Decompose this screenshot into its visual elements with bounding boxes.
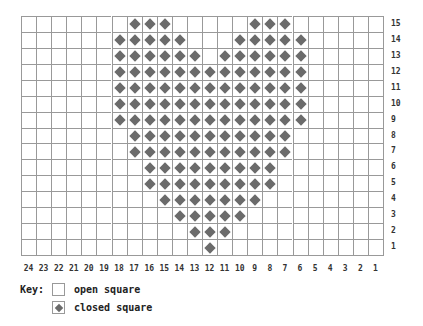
diamond-icon xyxy=(174,114,185,125)
diamond-icon xyxy=(235,178,246,189)
diamond-icon xyxy=(235,194,246,205)
open-square xyxy=(36,175,51,191)
open-square xyxy=(217,16,232,32)
open-square xyxy=(247,223,262,239)
closed-square xyxy=(157,96,172,112)
closed-square xyxy=(187,207,202,223)
open-square xyxy=(36,128,51,144)
open-square xyxy=(338,239,353,255)
open-square xyxy=(353,128,368,144)
diamond-icon xyxy=(189,178,200,189)
open-square xyxy=(293,207,308,223)
diamond-icon xyxy=(159,51,170,62)
closed-square xyxy=(202,159,217,175)
closed-square xyxy=(262,175,277,191)
closed-square xyxy=(157,143,172,159)
closed-square xyxy=(172,48,187,64)
diamond-icon xyxy=(204,67,215,78)
open-square xyxy=(81,239,96,255)
closed-square xyxy=(172,80,187,96)
open-square xyxy=(96,159,111,175)
closed-square xyxy=(232,80,247,96)
closed-square xyxy=(217,112,232,128)
closed-square xyxy=(217,175,232,191)
closed-square xyxy=(247,32,262,48)
diamond-icon xyxy=(295,51,306,62)
open-square xyxy=(277,223,292,239)
open-square xyxy=(262,207,277,223)
open-square xyxy=(21,143,36,159)
closed-square xyxy=(157,80,172,96)
open-square xyxy=(323,112,338,128)
diamond-icon xyxy=(235,130,246,141)
diamond-icon xyxy=(219,226,230,237)
open-square xyxy=(157,239,172,255)
closed-square xyxy=(172,207,187,223)
diamond-icon xyxy=(174,130,185,141)
diamond-icon xyxy=(159,194,170,205)
open-square xyxy=(308,191,323,207)
open-square xyxy=(127,223,142,239)
diamond-icon xyxy=(159,146,170,157)
closed-square xyxy=(187,191,202,207)
open-square xyxy=(202,32,217,48)
open-square xyxy=(51,175,66,191)
closed-square xyxy=(142,96,157,112)
open-square xyxy=(51,191,66,207)
open-square xyxy=(66,191,81,207)
diamond-icon xyxy=(204,210,215,221)
open-square xyxy=(368,207,383,223)
diamond-icon xyxy=(204,194,215,205)
row-label: 9 xyxy=(391,115,396,125)
diamond-icon xyxy=(295,114,306,125)
diamond-icon xyxy=(144,83,155,94)
closed-square xyxy=(142,128,157,144)
open-square xyxy=(21,80,36,96)
open-square xyxy=(353,191,368,207)
diamond-icon xyxy=(280,67,291,78)
open-square xyxy=(308,64,323,80)
open-square xyxy=(338,112,353,128)
open-square xyxy=(368,223,383,239)
closed-square xyxy=(187,80,202,96)
diamond-icon xyxy=(144,130,155,141)
open-square xyxy=(81,175,96,191)
diamond-icon xyxy=(114,35,125,46)
diamond-icon xyxy=(265,162,276,173)
open-square xyxy=(51,112,66,128)
closed-square xyxy=(157,48,172,64)
diamond-icon xyxy=(219,67,230,78)
open-square xyxy=(66,239,81,255)
open-square xyxy=(353,207,368,223)
row-label: 7 xyxy=(391,146,396,156)
row-label: 11 xyxy=(391,83,401,93)
open-square xyxy=(353,96,368,112)
open-square xyxy=(247,207,262,223)
diamond-icon xyxy=(265,19,276,30)
open-square xyxy=(36,112,51,128)
open-square xyxy=(368,175,383,191)
diamond-icon xyxy=(280,35,291,46)
row-label: 13 xyxy=(391,51,401,61)
closed-square xyxy=(157,32,172,48)
open-square xyxy=(51,128,66,144)
open-square xyxy=(96,32,111,48)
diamond-icon xyxy=(219,210,230,221)
open-square xyxy=(81,191,96,207)
open-square xyxy=(323,239,338,255)
diamond-icon xyxy=(265,146,276,157)
open-square xyxy=(51,96,66,112)
diamond-icon xyxy=(250,130,261,141)
closed-square xyxy=(262,96,277,112)
column-label: 7 xyxy=(277,264,293,274)
open-square xyxy=(323,191,338,207)
closed-square xyxy=(293,64,308,80)
diamond-icon xyxy=(219,114,230,125)
closed-square xyxy=(127,64,142,80)
open-square xyxy=(293,239,308,255)
open-square xyxy=(338,143,353,159)
diamond-icon xyxy=(235,35,246,46)
diamond-icon xyxy=(159,114,170,125)
open-square xyxy=(96,48,111,64)
closed-square xyxy=(232,128,247,144)
